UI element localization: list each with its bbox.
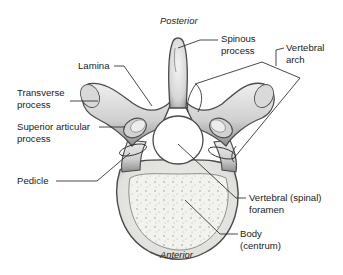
vertebral-body (117, 160, 238, 260)
label-body-centrum: Body (centrum) (240, 228, 281, 251)
label-transverse-process: Transverse process (17, 87, 65, 110)
label-vertebral-foramen: Vertebral (spinal) foramen (249, 192, 322, 215)
label-spinous-process: Spinous process (221, 33, 256, 56)
label-posterior: Posterior (160, 15, 198, 27)
label-pedicle: Pedicle (17, 175, 48, 187)
label-superior-articular-process: Superior articular process (17, 121, 90, 144)
label-vertebral-arch: Vertebral arch (286, 42, 324, 65)
label-lamina: Lamina (78, 60, 109, 72)
vertebral-foramen-opening (153, 116, 203, 164)
label-anterior: Anterior (160, 249, 193, 261)
vertebra-diagram: Posterior Anterior Spinous process Verte… (0, 0, 343, 275)
